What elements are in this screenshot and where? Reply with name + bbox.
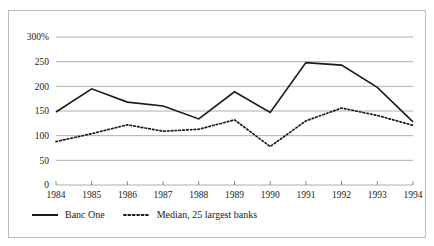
y-axis-labels-group: 050100150200250300% — [27, 32, 49, 190]
chart-legend: Banc One Median, 25 largest banks — [31, 209, 257, 220]
x-tick-label: 1994 — [404, 190, 423, 200]
plot-area: 050100150200250300% 19841985198619871988… — [9, 11, 427, 239]
x-tick-label: 1989 — [225, 190, 244, 200]
y-tick-label: 250 — [35, 57, 50, 67]
legend-label-banc-one: Banc One — [65, 209, 105, 220]
y-tick-label: 100 — [35, 131, 50, 141]
x-tick-label: 1984 — [47, 190, 66, 200]
x-tickmarks-group — [56, 181, 413, 185]
x-tick-label: 1990 — [261, 190, 280, 200]
legend-label-median-banks: Median, 25 largest banks — [157, 209, 257, 220]
y-tick-label: 50 — [40, 156, 50, 166]
series-line-median-banks — [56, 108, 413, 146]
x-tick-label: 1988 — [189, 190, 208, 200]
legend-item-banc-one: Banc One — [31, 209, 105, 220]
legend-solid-line-icon — [31, 211, 59, 219]
x-tick-label: 1992 — [332, 190, 351, 200]
data-series-group — [56, 63, 413, 147]
chart-figure: 050100150200250300% 19841985198619871988… — [0, 0, 434, 246]
x-tick-label: 1985 — [82, 190, 101, 200]
x-tick-label: 1986 — [118, 190, 137, 200]
x-tick-label: 1987 — [154, 190, 173, 200]
line-chart-canvas: 050100150200250300% 19841985198619871988… — [9, 11, 427, 239]
x-tick-label: 1991 — [296, 190, 315, 200]
chart-frame: 050100150200250300% 19841985198619871988… — [8, 10, 426, 238]
legend-dotted-line-icon — [123, 211, 151, 219]
y-tick-label: 0 — [44, 180, 49, 190]
y-tick-label: 300% — [27, 32, 49, 42]
y-tick-label: 200 — [35, 82, 50, 92]
series-line-banc-one — [56, 63, 413, 122]
legend-item-median-banks: Median, 25 largest banks — [123, 209, 257, 220]
x-axis-labels-group: 1984198519861987198819891990199119921993… — [47, 190, 423, 200]
y-tick-label: 150 — [35, 106, 50, 116]
x-tick-label: 1993 — [368, 190, 387, 200]
